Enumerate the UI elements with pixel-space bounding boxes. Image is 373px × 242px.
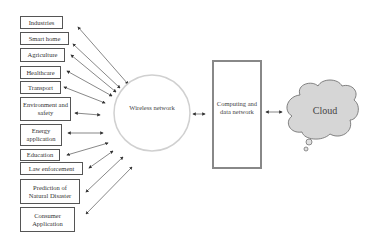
wireless-network-circle [114,75,190,151]
domain-healthcare: Healthcare [20,66,61,79]
domain-consumer-application: Consumer Application [20,207,75,232]
arrow-law-enforcement [89,151,113,168]
computing-data-network-label: Computing and data network [214,100,260,116]
wireless-network-label: Wireless network [127,104,177,112]
arrow-agriculture [71,55,116,92]
arrow-education [67,143,108,155]
domain-smart-home: Smart home [20,32,69,45]
domain-transport: Transport [20,81,61,94]
domain-law-enforcement: Law enforcement [20,162,83,175]
domain-prediction-natural-disaster: Prediction of Natural Disaster [20,179,80,204]
domain-industries: Industries [20,16,63,29]
arrow-environment [75,113,100,115]
domain-agriculture: Agriculture [20,48,65,62]
domain-energy-application: Energy application [20,124,62,146]
arrow-prediction [86,157,123,192]
arrow-smart-home [73,44,120,88]
cloud-label: Cloud [300,105,350,116]
arrow-consumer [86,167,132,214]
domain-education: Education [20,149,60,161]
domain-environment-safety: Environment and safety [20,97,71,121]
